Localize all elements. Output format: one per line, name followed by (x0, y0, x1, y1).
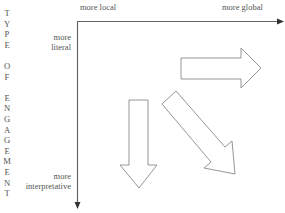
axis-arrowhead-icon (277, 19, 284, 25)
down-arrow-icon (120, 100, 157, 188)
right-arrow-icon (181, 48, 261, 88)
axis-arrowhead-icon (75, 202, 81, 209)
vertical-axis (75, 21, 81, 209)
horizontal-axis (77, 19, 284, 25)
diagram-canvas (0, 0, 285, 213)
diagonal-arrow-icon (162, 91, 235, 174)
